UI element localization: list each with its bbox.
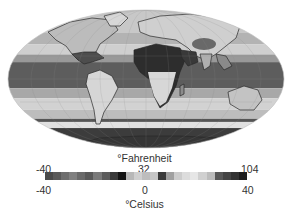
- colorbar-segment: [150, 172, 158, 180]
- colorbar-segment: [142, 172, 150, 180]
- colorbar-segment: [110, 172, 118, 180]
- madagascar: [180, 84, 184, 96]
- colorbar-segment: [134, 172, 142, 180]
- colorbar-segment: [190, 172, 198, 180]
- ocean-band: [0, 33, 289, 45]
- colorbar-segment: [166, 172, 174, 180]
- colorbar-segment: [182, 172, 190, 180]
- colorbar-segment: [118, 172, 126, 180]
- colorbar-segment: [239, 172, 247, 180]
- colorbar-segment: [215, 172, 223, 180]
- temperature-colorbar: [45, 172, 247, 180]
- colorbar-segment: [53, 172, 61, 180]
- celsius-tick: -40: [36, 184, 51, 196]
- world-temperature-map: [0, 0, 289, 155]
- colorbar-segment: [45, 172, 53, 180]
- colorbar-segment: [77, 172, 85, 180]
- celsius-tick: 40: [242, 184, 254, 196]
- colorbar-segment: [174, 172, 182, 180]
- celsius-unit-label: °Celsius: [0, 198, 289, 210]
- colorbar-segment: [61, 172, 69, 180]
- colorbar-segment: [69, 172, 77, 180]
- ocean-band: [0, 119, 289, 122]
- temperature-legend: °Fahrenheit -4032104 -40040 °Celsius: [0, 150, 289, 211]
- ocean-band: [0, 110, 289, 119]
- map-ellipse: [0, 10, 289, 155]
- colorbar-segment: [223, 172, 231, 180]
- celsius-tick: 0: [142, 184, 148, 196]
- colorbar-segment: [93, 172, 101, 180]
- tibet-region: [192, 38, 216, 50]
- colorbar-segment: [85, 172, 93, 180]
- colorbar-segment: [198, 172, 206, 180]
- colorbar-segment: [231, 172, 239, 180]
- colorbar-segment: [126, 172, 134, 180]
- colorbar-segment: [158, 172, 166, 180]
- colorbar-segment: [207, 172, 215, 180]
- colorbar-segment: [102, 172, 110, 180]
